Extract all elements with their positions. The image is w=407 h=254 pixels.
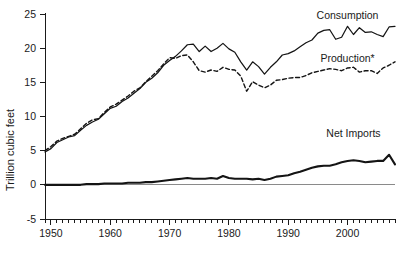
y-tick-label: 10 — [24, 110, 36, 122]
series-label-consumption: Consumption — [317, 9, 379, 21]
y-tick-label: 25 — [24, 8, 36, 20]
y-axis-tick-labels: -50510152025 — [24, 8, 36, 225]
x-tick-label: 2000 — [336, 227, 360, 239]
series-label-production-: Production* — [320, 52, 374, 64]
y-axis-title: Trillion cubic feet — [4, 109, 16, 191]
series-lines-group — [45, 26, 395, 185]
x-tick-label: 1960 — [99, 227, 123, 239]
energy-line-chart: -50510152025 Trillion cubic feet 1950196… — [0, 0, 407, 254]
x-axis-minor-ticks — [45, 219, 395, 223]
y-tick-label: -5 — [27, 213, 36, 225]
x-axis-group: 195019601970198019902000 — [39, 219, 395, 239]
y-tick-label: 5 — [30, 144, 36, 156]
x-axis-tick-labels: 195019601970198019902000 — [39, 227, 359, 239]
series-label-net-imports: Net Imports — [326, 127, 380, 139]
y-tick-label: 15 — [24, 76, 36, 88]
y-axis-ticks — [40, 14, 45, 219]
y-tick-label: 20 — [24, 42, 36, 54]
x-tick-label: 1980 — [217, 227, 241, 239]
x-tick-label: 1970 — [158, 227, 182, 239]
y-axis-group: -50510152025 Trillion cubic feet — [4, 8, 45, 225]
x-tick-label: 1990 — [277, 227, 301, 239]
y-tick-label: 0 — [30, 178, 36, 190]
chart-canvas: -50510152025 Trillion cubic feet 1950196… — [0, 0, 407, 254]
series-line-net-imports — [45, 155, 395, 185]
x-tick-label: 1950 — [39, 227, 63, 239]
